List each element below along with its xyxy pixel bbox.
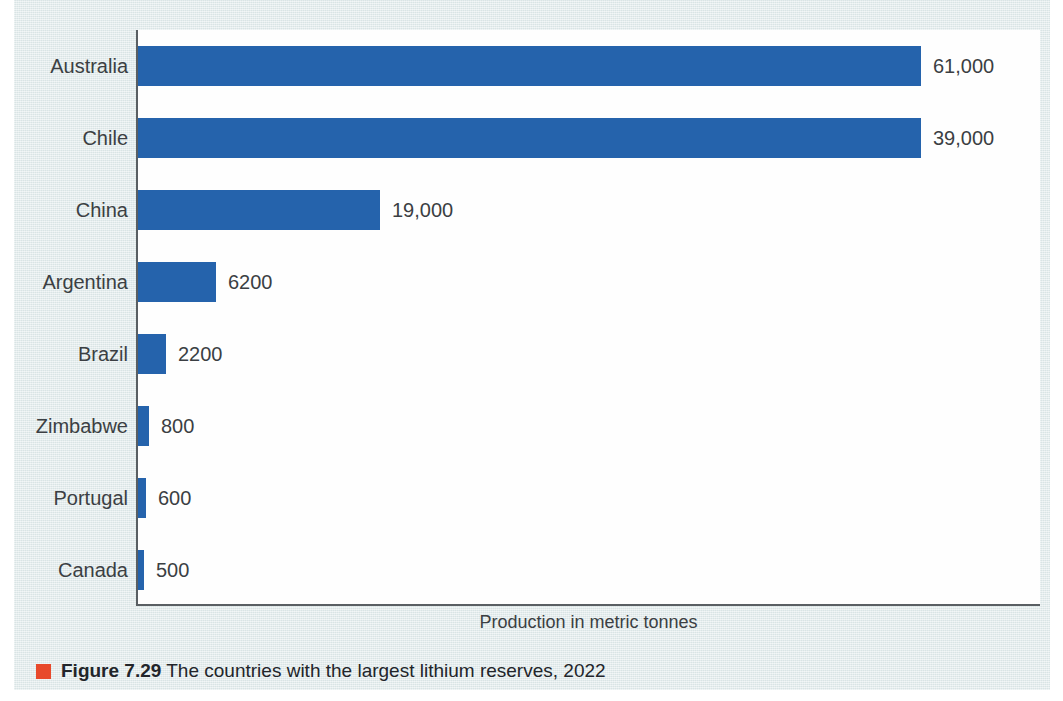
- category-label: China: [76, 174, 128, 246]
- bar-value-label: 19,000: [392, 190, 453, 230]
- category-label: Argentina: [42, 246, 128, 318]
- category-label: Australia: [50, 30, 128, 102]
- caption-figure-number: Figure 7.29: [61, 660, 161, 681]
- bar: [138, 46, 921, 86]
- category-label: Portugal: [54, 462, 129, 534]
- bar-row: Australia61,000: [0, 30, 1063, 102]
- bar-row: Zimbabwe800: [0, 390, 1063, 462]
- category-label: Zimbabwe: [36, 390, 128, 462]
- bar-track: 600: [138, 462, 1040, 534]
- bar: [138, 550, 144, 590]
- bar: [138, 334, 166, 374]
- bar-row: China19,000: [0, 174, 1063, 246]
- bar-value-label: 6200: [228, 262, 273, 302]
- bar-track: 19,000: [138, 174, 1040, 246]
- category-label: Canada: [58, 534, 128, 606]
- caption-marker-icon: [36, 664, 51, 679]
- bar-row: Chile39,000: [0, 102, 1063, 174]
- bar-track: 800: [138, 390, 1040, 462]
- figure-caption: Figure 7.29 The countries with the large…: [36, 658, 606, 684]
- bar-track: 61,000: [138, 30, 1040, 102]
- bar-row: Argentina6200: [0, 246, 1063, 318]
- bar-track: 39,000: [138, 102, 1040, 174]
- bar: [138, 406, 149, 446]
- bar-rows: Australia61,000Chile39,000China19,000Arg…: [0, 30, 1063, 606]
- category-label: Brazil: [78, 318, 128, 390]
- bar-value-label: 600: [158, 478, 191, 518]
- bar: [138, 118, 921, 158]
- bar-value-label: 500: [156, 550, 189, 590]
- bar-track: 6200: [138, 246, 1040, 318]
- caption-description: The countries with the largest lithium r…: [161, 660, 605, 681]
- figure-container: Australia61,000Chile39,000China19,000Arg…: [0, 0, 1063, 701]
- bar-value-label: 800: [161, 406, 194, 446]
- bar: [138, 478, 146, 518]
- bar: [138, 262, 216, 302]
- category-label: Chile: [82, 102, 128, 174]
- bar-value-label: 39,000: [933, 118, 994, 158]
- bar-value-label: 2200: [178, 334, 223, 374]
- bar: [138, 190, 380, 230]
- x-axis-title: Production in metric tonnes: [137, 612, 1040, 633]
- bar-track: 500: [138, 534, 1040, 606]
- bar-row: Brazil2200: [0, 318, 1063, 390]
- bar-track: 2200: [138, 318, 1040, 390]
- caption-text: Figure 7.29 The countries with the large…: [61, 660, 606, 682]
- bar-value-label: 61,000: [933, 46, 994, 86]
- bar-row: Canada500: [0, 534, 1063, 606]
- bar-row: Portugal600: [0, 462, 1063, 534]
